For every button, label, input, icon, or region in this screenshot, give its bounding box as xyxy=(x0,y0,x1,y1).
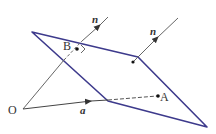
label-n-1: n xyxy=(92,13,98,25)
label-o: O xyxy=(8,103,17,117)
normal-line-extension-1 xyxy=(100,17,108,25)
point-b xyxy=(75,47,79,51)
label-b: B xyxy=(63,39,71,53)
dashed-line-to-a xyxy=(108,96,157,100)
normal-vector-2 xyxy=(134,37,158,61)
label-n-2: n xyxy=(150,25,156,37)
right-angle-mark xyxy=(81,45,85,53)
normal-vector-1 xyxy=(82,25,100,41)
plane-parallelogram xyxy=(32,32,207,127)
vector-a-extension xyxy=(91,100,108,101)
normal-line-extension-2 xyxy=(158,18,178,37)
line-o-to-b xyxy=(23,60,64,109)
label-a: A xyxy=(160,90,169,104)
diagram-canvas: O B A n n a xyxy=(0,0,216,134)
point-on-plane xyxy=(131,60,134,63)
label-a-vector: a xyxy=(80,104,86,116)
